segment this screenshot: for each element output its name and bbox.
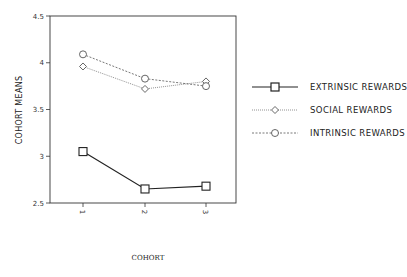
legend-item-extrinsic: EXTRINSIC REWARDS xyxy=(252,75,407,98)
series-intrinsic-rewards xyxy=(80,51,210,90)
diamond-marker-icon xyxy=(80,63,87,70)
square-marker-icon xyxy=(252,81,298,93)
square-marker-icon xyxy=(202,182,210,190)
series-extrinsic-rewards xyxy=(79,148,210,193)
x-axis-title: COHORT xyxy=(132,254,165,262)
y-axis: 2.533.544.5 xyxy=(33,13,50,208)
legend: EXTRINSIC REWARDS SOCIAL REWARDS INTRINS… xyxy=(252,75,407,144)
circle-marker-icon xyxy=(252,127,298,139)
circle-marker-icon xyxy=(203,83,210,90)
diamond-marker-icon xyxy=(142,85,149,92)
x-tick-label: 3 xyxy=(201,210,209,214)
legend-label: INTRINSIC REWARDS xyxy=(310,128,405,138)
y-axis-title: COHORT MEANS xyxy=(15,76,24,145)
legend-label: SOCIAL REWARDS xyxy=(310,105,392,115)
circle-marker-icon xyxy=(142,75,149,82)
x-tick-label: 1 xyxy=(78,210,86,214)
legend-item-intrinsic: INTRINSIC REWARDS xyxy=(252,121,407,144)
circle-marker-icon xyxy=(80,51,87,58)
square-marker-icon xyxy=(79,148,87,156)
y-tick-label: 2.5 xyxy=(33,200,44,208)
y-tick-label: 4 xyxy=(40,59,45,67)
legend-item-social: SOCIAL REWARDS xyxy=(252,98,407,121)
x-axis: 123 xyxy=(78,203,209,214)
diamond-marker-icon xyxy=(252,104,298,116)
y-tick-label: 3 xyxy=(40,153,44,161)
plot-frame xyxy=(50,16,236,203)
data-series xyxy=(79,51,210,193)
y-tick-label: 4.5 xyxy=(33,13,44,21)
legend-label: EXTRINSIC REWARDS xyxy=(310,82,407,92)
plot-border xyxy=(50,16,236,203)
square-marker-icon xyxy=(141,185,149,193)
x-tick-label: 2 xyxy=(140,210,148,214)
y-tick-label: 3.5 xyxy=(33,106,44,114)
